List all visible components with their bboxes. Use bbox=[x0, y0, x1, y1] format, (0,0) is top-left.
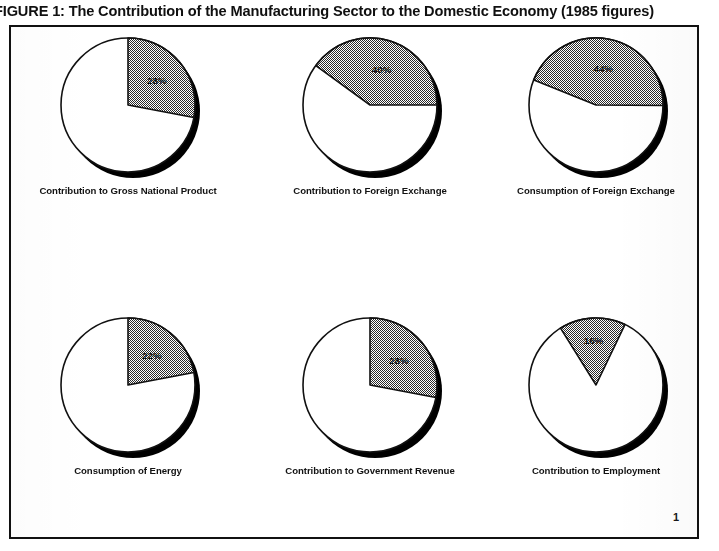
pie-chart-svg: 44% bbox=[481, 29, 711, 189]
pie-chart-cell: 28% Contribution to Government Revenue bbox=[255, 309, 485, 509]
pie-chart-government-revenue: 28% Contribution to Government Revenue bbox=[255, 309, 485, 469]
pie-slice-percentage-label: 16% bbox=[584, 335, 604, 346]
pie-chart-cell: 44% Consumption of Foreign Exchange bbox=[481, 29, 711, 229]
pie-chart-label: Consumption of Foreign Exchange bbox=[481, 185, 711, 196]
pie-chart-svg: 28% bbox=[255, 309, 485, 469]
pie-chart-svg: 22% bbox=[13, 309, 243, 469]
pie-chart-label: Contribution to Government Revenue bbox=[255, 465, 485, 476]
pie-slice-percentage-label: 40% bbox=[372, 64, 392, 75]
figure-title: FIGURE 1: The Contribution of the Manufa… bbox=[0, 1, 719, 21]
pie-chart-svg: 28% bbox=[13, 29, 243, 189]
pie-chart-svg: 40% bbox=[255, 29, 485, 189]
pie-chart-cell: 16% Contribution to Employment bbox=[481, 309, 711, 509]
pie-chart-label: Contribution to Gross National Product bbox=[13, 185, 243, 196]
figure-frame: 28% Contribution to Gross National Produ… bbox=[9, 25, 699, 539]
pie-chart-gross-national-product: 28% Contribution to Gross National Produ… bbox=[13, 29, 243, 189]
pie-chart-row-bottom: 22% Consumption of Energy 28% Contributi… bbox=[11, 309, 697, 509]
pie-chart-consumption-foreign-exchange: 44% Consumption of Foreign Exchange bbox=[481, 29, 711, 189]
pie-chart-cell: 40% Contribution to Foreign Exchange bbox=[255, 29, 485, 229]
pie-chart-label: Consumption of Energy bbox=[13, 465, 243, 476]
pie-slice-percentage-label: 44% bbox=[593, 63, 613, 74]
page-number: 1 bbox=[673, 511, 679, 523]
pie-chart-row-top: 28% Contribution to Gross National Produ… bbox=[11, 29, 697, 229]
pie-chart-svg: 16% bbox=[481, 309, 711, 469]
pie-chart-contribution-foreign-exchange: 40% Contribution to Foreign Exchange bbox=[255, 29, 485, 189]
pie-chart-label: Contribution to Foreign Exchange bbox=[255, 185, 485, 196]
pie-chart-contribution-to-employment: 16% Contribution to Employment bbox=[481, 309, 711, 469]
pie-chart-cell: 22% Consumption of Energy bbox=[13, 309, 243, 509]
pie-chart-cell: 28% Contribution to Gross National Produ… bbox=[13, 29, 243, 229]
pie-slice-percentage-label: 22% bbox=[142, 350, 162, 361]
pie-chart-consumption-of-energy: 22% Consumption of Energy bbox=[13, 309, 243, 469]
pie-slice-percentage-label: 28% bbox=[389, 355, 409, 366]
pie-slice-percentage-label: 28% bbox=[147, 75, 167, 86]
pie-chart-label: Contribution to Employment bbox=[481, 465, 711, 476]
